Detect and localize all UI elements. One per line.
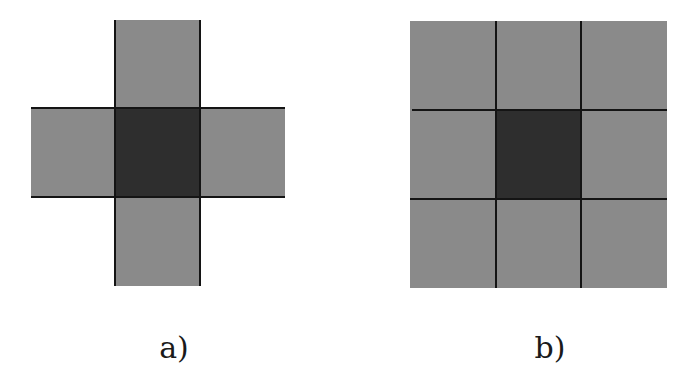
figure-b-label: b) <box>535 333 566 363</box>
figure-a-label: a) <box>159 333 189 363</box>
grid-line-horizontal-1 <box>412 109 667 111</box>
grid-cell-center <box>496 110 581 199</box>
grid-line-vertical-1 <box>495 21 497 288</box>
figure-b-grid <box>0 0 693 300</box>
grid-line-vertical-2 <box>580 21 582 288</box>
grid-line-horizontal-2 <box>410 198 667 200</box>
